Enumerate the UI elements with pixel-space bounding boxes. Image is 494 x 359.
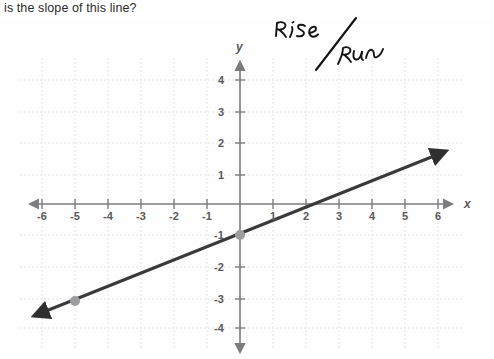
x-tick-label-3: 3: [328, 210, 350, 222]
x-tick-label-neg5: -5: [64, 210, 86, 222]
y-tick-label-neg3: -3: [208, 293, 230, 305]
grid-lines: [20, 58, 462, 348]
x-tick-label-neg3: -3: [130, 210, 152, 222]
x-tick-label-1: 1: [262, 210, 284, 222]
point-on-line: [70, 296, 80, 306]
y-tick-label-2: 2: [210, 137, 232, 149]
y-axis-label: y: [236, 40, 243, 54]
y-axis: [235, 62, 245, 352]
question-prompt: is the slope of this line?: [4, 0, 304, 16]
x-tick-label-5: 5: [394, 210, 416, 222]
worksheet-screenshot: is the slope of this line?: [0, 0, 494, 359]
y-tick-label-1: 1: [210, 169, 232, 181]
x-axis-label: x: [464, 197, 471, 211]
x-tick-label-neg4: -4: [97, 210, 119, 222]
x-tick-label-neg2: -2: [163, 210, 185, 222]
y-tick-label-3: 3: [210, 106, 232, 118]
x-tick-label-2: 2: [295, 210, 317, 222]
y-tick-label-4: 4: [210, 74, 232, 86]
handwritten-rise-over-run-annotation: [268, 16, 388, 72]
graph-canvas: [0, 18, 494, 359]
x-tick-label-6: 6: [427, 210, 449, 222]
x-tick-label-neg1: -1: [196, 210, 218, 222]
x-tick-label-neg6: -6: [31, 210, 53, 222]
x-tick-label-4: 4: [361, 210, 383, 222]
point-y-intercept: [235, 230, 245, 240]
y-tick-label-neg2: -2: [208, 261, 230, 273]
y-tick-label-neg1: -1: [208, 229, 230, 241]
coordinate-plane-graph: -6 -5 -4 -3 -2 -1 1 2 3 4 5 6 4 3 2 1 -1…: [0, 18, 494, 359]
y-tick-label-neg4: -4: [208, 322, 230, 334]
x-axis: [30, 199, 452, 209]
